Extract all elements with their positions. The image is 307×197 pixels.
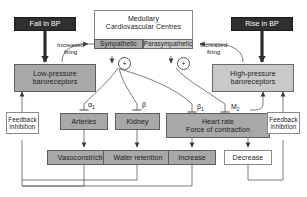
feedback-right-line-2: inhibition xyxy=(271,123,297,130)
decrease-label: Decrease xyxy=(233,154,264,162)
label-alpha1-receptor: α1 xyxy=(88,101,95,110)
heart-line-1: Heart rate xyxy=(202,118,234,126)
node-kidney: Kidney xyxy=(115,113,160,130)
beta1-sub: 1 xyxy=(201,106,204,112)
node-feedback-inhibition-right: Feedback inhibition xyxy=(267,112,300,134)
node-decrease: Decrease xyxy=(224,150,272,165)
label-m2-receptor: M2 xyxy=(231,103,240,112)
label-increased-firing-left: Increased firing xyxy=(57,41,84,55)
node-parasympathetic: Parasympathetic xyxy=(143,39,193,49)
water-retention-label: Water retention xyxy=(113,154,162,162)
increased-firing-right-line-2: firing xyxy=(200,48,227,55)
alpha1-sub: 1 xyxy=(92,104,95,110)
node-heart-rate-force-of-contraction: Heart rate Force of contraction xyxy=(166,113,270,138)
node-feedback-inhibition-left: Feedback inhibition xyxy=(6,112,39,134)
increase-label: Increase xyxy=(178,154,206,162)
m2-sub: 2 xyxy=(237,106,240,112)
high-pressure-line-1: High-pressure xyxy=(230,70,275,78)
node-high-pressure-baroreceptors: High-pressure baroreceptors xyxy=(212,64,294,92)
plus-sign-parasympathetic: + xyxy=(177,57,190,70)
parasympathetic-label: Parasympathetic xyxy=(144,40,192,47)
node-fall-in-bp: Fall in BP xyxy=(14,17,76,31)
feedback-right-line-1: Feedback xyxy=(269,116,297,123)
label-beta-receptor: β xyxy=(142,101,146,108)
node-low-pressure-baroreceptors: Low-pressure baroreceptors xyxy=(14,64,96,92)
heart-line-2: Force of contraction xyxy=(186,126,250,134)
low-pressure-line-2: baroreceptors xyxy=(33,78,78,86)
increased-firing-right-line-1: Increased xyxy=(200,41,227,48)
node-increase: Increase xyxy=(168,150,216,165)
beta-base: β xyxy=(142,101,146,108)
plus-left-label: + xyxy=(122,60,126,67)
feedback-left-line-1: Feedback xyxy=(8,116,36,123)
node-arteries: Arteries xyxy=(60,113,108,130)
fall-in-bp-label: Fall in BP xyxy=(30,20,61,28)
plus-right-label: + xyxy=(181,60,185,67)
kidney-label: Kidney xyxy=(126,118,148,126)
low-pressure-line-1: Low-pressure xyxy=(33,70,77,78)
feedback-left-line-2: inhibition xyxy=(10,123,36,130)
plus-sign-sympathetic: + xyxy=(118,57,131,70)
increased-firing-left-line-1: Increased xyxy=(57,41,84,48)
diagram-canvas: Fall in BP Rise in BP Medullary Cardiova… xyxy=(0,0,307,197)
medullary-line-2: Cardiovascular Centres xyxy=(106,23,181,31)
node-rise-in-bp: Rise in BP xyxy=(231,17,293,31)
label-increased-firing-right: Increased firing xyxy=(200,41,227,55)
node-sympathetic: Sympathetic xyxy=(94,39,143,49)
medullary-line-1: Medullary xyxy=(128,15,159,23)
arteries-label: Arteries xyxy=(72,118,97,126)
sympathetic-label: Sympathetic xyxy=(100,40,137,47)
high-pressure-line-2: baroreceptors xyxy=(231,78,276,86)
label-beta1-receptor: β1 xyxy=(197,103,204,112)
rise-in-bp-label: Rise in BP xyxy=(245,20,279,28)
increased-firing-left-line-2: firing xyxy=(57,48,84,55)
node-water-retention: Water retention xyxy=(103,150,173,165)
